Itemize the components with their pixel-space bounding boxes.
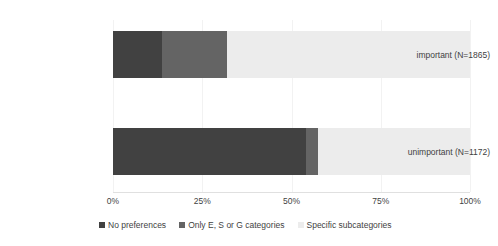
legend-item[interactable]: Only E, S or G categories <box>179 221 284 230</box>
plot-area <box>113 20 470 192</box>
x-tick-label: 100% <box>459 197 481 206</box>
x-tick-label: 75% <box>372 197 389 206</box>
legend-label: Specific subcategories <box>307 221 392 230</box>
x-tick-label: 50% <box>283 197 300 206</box>
legend-swatch-icon <box>99 222 105 228</box>
gridline-100 <box>470 20 471 192</box>
bar-segment[interactable] <box>306 128 318 175</box>
category-label: unimportant (N=1172) <box>386 148 490 157</box>
x-axis-line <box>113 192 470 193</box>
bar-segment[interactable] <box>113 31 162 78</box>
chart-legend: No preferencesOnly E, S or G categoriesS… <box>0 221 498 230</box>
legend-swatch-icon <box>179 222 185 228</box>
x-axis-tick-labels: 0%25%50%75%100% <box>0 197 498 211</box>
x-tick-label: 25% <box>194 197 211 206</box>
category-label: important (N=1865) <box>386 51 490 60</box>
bar-segment[interactable] <box>113 128 306 175</box>
legend-label: No preferences <box>108 221 166 230</box>
stacked-bar-chart: important (N=1865)unimportant (N=1172) 0… <box>0 0 498 246</box>
x-tick-label: 0% <box>107 197 119 206</box>
legend-item[interactable]: No preferences <box>99 221 166 230</box>
legend-swatch-icon <box>298 222 304 228</box>
legend-label: Only E, S or G categories <box>188 221 284 230</box>
bar-segment[interactable] <box>162 31 227 78</box>
legend-item[interactable]: Specific subcategories <box>298 221 392 230</box>
